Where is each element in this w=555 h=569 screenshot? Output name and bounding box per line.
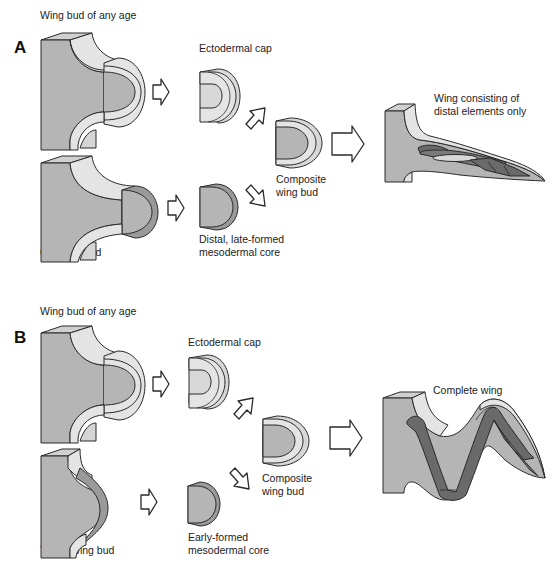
- a-distal-mesodermal-core: [200, 184, 238, 230]
- b-wing-bud-any-age: [41, 326, 145, 443]
- b-complete-wing: [383, 392, 545, 500]
- diagram-canvas: [0, 0, 555, 569]
- a-distal-only-wing: [385, 104, 545, 182]
- arrow-diagonal-icon: [234, 398, 253, 419]
- arrow-right-icon: [332, 126, 364, 162]
- b-ectodermal-cap: [189, 355, 229, 409]
- b-early-mesodermal-core: [188, 482, 220, 526]
- arrow-diagonal-icon: [246, 108, 265, 129]
- arrow-right-icon: [330, 420, 362, 456]
- arrow-right-icon: [153, 79, 169, 105]
- a-wing-bud-any-age: [41, 33, 145, 150]
- a-composite-wing-bud: [276, 118, 322, 168]
- arrow-right-icon: [153, 371, 169, 397]
- arrow-diagonal-icon: [246, 185, 265, 206]
- b-young-wing-bud: [41, 449, 108, 558]
- a-ectodermal-cap: [200, 69, 240, 123]
- arrow-diagonal-icon: [230, 468, 249, 489]
- arrow-right-icon: [168, 195, 184, 221]
- arrow-right-icon: [141, 489, 157, 515]
- b-composite-wing-bud: [263, 416, 309, 466]
- a-old-wing-bud: [41, 156, 158, 262]
